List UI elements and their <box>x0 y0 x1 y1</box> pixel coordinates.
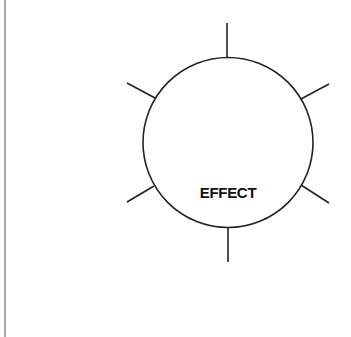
spoke-lower-left <box>127 186 154 202</box>
diagram-canvas: EFFECT <box>0 0 351 337</box>
effect-circle <box>143 58 313 228</box>
spoke-upper-right <box>301 84 329 99</box>
effect-label: EFFECT <box>188 184 268 201</box>
effect-diagram <box>0 0 351 337</box>
spoke-upper-left <box>127 83 155 98</box>
spokes-group <box>127 23 329 262</box>
spoke-lower-right <box>301 185 329 203</box>
